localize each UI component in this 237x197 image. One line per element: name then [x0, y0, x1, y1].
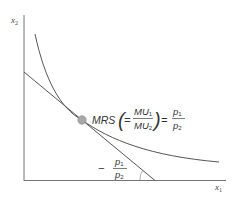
slope-label: − p1 p2 — [98, 156, 127, 180]
indifference-curve — [35, 34, 219, 162]
y-axis-label: x2 — [10, 15, 18, 26]
consumer-optimum-diagram: x2 x1 MRS ( = MU1 MU2 ) = p1 p2 − — [0, 0, 237, 197]
close-paren: ) — [152, 109, 161, 131]
p1-numerator: p1 — [172, 106, 182, 117]
slope-denominator: p2 — [114, 169, 124, 180]
mu2-denominator: MU2 — [134, 120, 153, 131]
x-axis-label: x1 — [214, 182, 222, 193]
mrs-label: MRS — [92, 114, 115, 126]
optimality-equation: MRS ( = MU1 MU2 ) = p1 p2 — [92, 106, 185, 131]
equals-2: = — [161, 114, 168, 126]
tangent-point — [78, 116, 86, 124]
p2-denominator: p2 — [172, 120, 182, 131]
minus-sign: − — [98, 162, 105, 174]
slope-numerator: p1 — [114, 156, 124, 167]
equals-1: = — [124, 114, 131, 126]
mu1-numerator: MU1 — [134, 106, 153, 117]
slope-angle-arc — [140, 170, 143, 180]
